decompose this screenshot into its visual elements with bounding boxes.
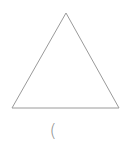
triangle-shape xyxy=(12,13,119,108)
triangle-diagram xyxy=(0,0,126,143)
caption-label: ( xyxy=(47,120,59,142)
